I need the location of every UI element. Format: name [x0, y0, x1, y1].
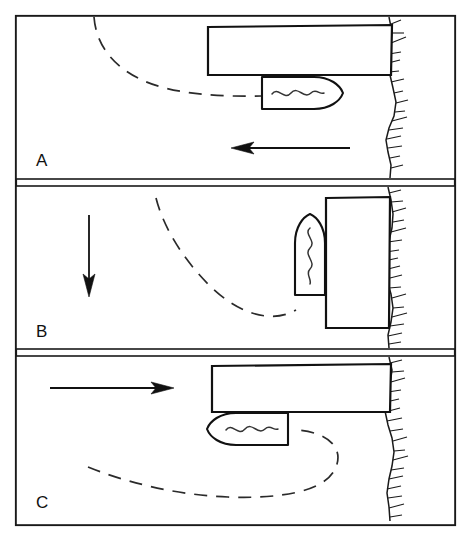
panel-b-label: B — [36, 322, 47, 341]
docking-diagram: A — [0, 0, 471, 543]
pier-c — [212, 364, 391, 412]
vessel-c — [207, 413, 288, 445]
panel-a: A — [16, 16, 455, 179]
vessel-b — [295, 214, 325, 295]
panel-b: B — [16, 186, 455, 349]
vessel-a — [262, 77, 343, 109]
panel-a-label: A — [36, 151, 48, 170]
pier-a — [208, 25, 392, 75]
panel-c: C — [16, 356, 455, 525]
figure-root: A — [0, 0, 471, 543]
panel-c-label: C — [36, 493, 48, 512]
pier-b — [326, 197, 390, 328]
